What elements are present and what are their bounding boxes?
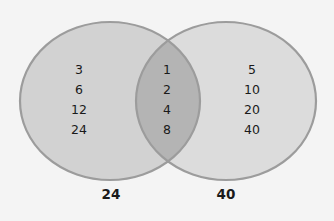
element: 8 — [163, 120, 171, 140]
set-24-label: 24 — [91, 186, 131, 202]
intersection-elements: 1 2 4 8 — [147, 60, 187, 140]
element: 3 — [75, 60, 83, 80]
element: 1 — [163, 60, 171, 80]
element: 4 — [163, 100, 171, 120]
element: 6 — [75, 80, 83, 100]
element: 20 — [244, 100, 260, 120]
element: 12 — [71, 100, 87, 120]
set-40-label: 40 — [206, 186, 246, 202]
venn-diagram: 3 6 12 24 1 2 4 8 5 10 20 40 24 40 — [0, 0, 334, 221]
element: 10 — [244, 80, 260, 100]
set-24-only-elements: 3 6 12 24 — [59, 60, 99, 140]
element: 5 — [248, 60, 256, 80]
element: 2 — [163, 80, 171, 100]
set-40-only-elements: 5 10 20 40 — [232, 60, 272, 140]
element: 24 — [71, 120, 87, 140]
element: 40 — [244, 120, 260, 140]
